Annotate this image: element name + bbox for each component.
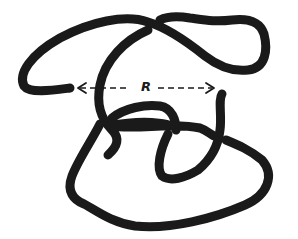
distance-label: R <box>141 79 151 94</box>
knot-drawing <box>0 0 298 239</box>
rope-middle-strand <box>110 106 214 137</box>
knot-diagram: R <box>0 0 298 239</box>
